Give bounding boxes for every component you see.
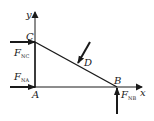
free-body-diagram: y x C A B D F NC F NA F NB: [0, 0, 154, 121]
force-nc-label: F NC: [13, 47, 29, 59]
x-axis-label: x: [140, 87, 146, 98]
force-nb-label: F NB: [120, 89, 136, 101]
svg-text:NA: NA: [21, 77, 29, 83]
svg-text:NB: NB: [128, 95, 136, 101]
point-d-label: D: [83, 57, 92, 68]
point-c-label: C: [26, 31, 34, 42]
svg-text:NC: NC: [21, 53, 29, 59]
force-na-label: F NA: [13, 71, 29, 83]
point-a-label: A: [31, 89, 39, 100]
point-b-label: B: [113, 75, 121, 86]
y-axis-label: y: [25, 9, 32, 20]
member-cb: [35, 42, 117, 87]
